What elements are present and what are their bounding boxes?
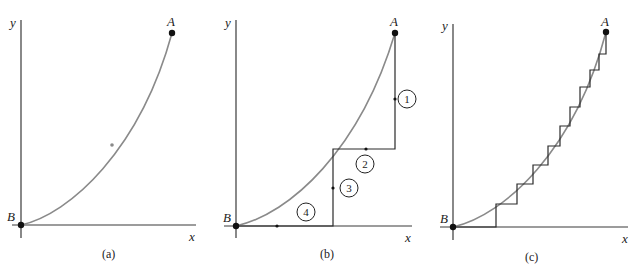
- point-b: [450, 224, 456, 230]
- step-2-label: 2: [362, 158, 368, 170]
- y-axis-label: y: [8, 15, 16, 30]
- point-a: [392, 30, 398, 36]
- caption-b: (b): [320, 247, 334, 261]
- point-b: [18, 222, 24, 228]
- curve-path: [453, 32, 606, 227]
- label-b: B: [223, 210, 231, 225]
- x-axis-label: x: [188, 229, 195, 244]
- panel-a: y x A B (a): [7, 14, 196, 261]
- curve-path: [236, 33, 395, 226]
- direction-arrow-icon: [110, 143, 114, 147]
- label-a: A: [166, 14, 175, 29]
- point-a: [169, 30, 175, 36]
- figure-canvas: y x A B (a) 1 2 3 4 y x A B (b): [0, 0, 636, 270]
- label-b: B: [440, 211, 448, 226]
- step-3-label: 3: [346, 182, 352, 194]
- step-1-label: 1: [404, 93, 410, 105]
- point-a: [603, 29, 609, 35]
- x-axis-label: x: [621, 231, 628, 246]
- label-b: B: [7, 209, 15, 224]
- stepped-path: [236, 33, 395, 226]
- panel-c: y x A B (c): [440, 14, 628, 264]
- y-axis-label: y: [223, 15, 231, 30]
- caption-a: (a): [102, 247, 115, 261]
- arrow-3-icon: [331, 186, 334, 189]
- caption-c: (c): [525, 250, 538, 264]
- step-4-label: 4: [303, 206, 309, 218]
- y-axis-label: y: [440, 18, 448, 33]
- label-a: A: [600, 14, 609, 29]
- staircase-path: [453, 32, 606, 227]
- arrow-1-icon: [393, 97, 396, 100]
- point-b: [233, 223, 239, 229]
- panel-b: 1 2 3 4 y x A B (b): [223, 14, 416, 261]
- x-axis-label: x: [404, 230, 411, 245]
- arrow-4-icon: [275, 224, 278, 227]
- curve-path: [21, 33, 172, 225]
- label-a: A: [389, 14, 398, 29]
- arrow-2-icon: [364, 147, 367, 150]
